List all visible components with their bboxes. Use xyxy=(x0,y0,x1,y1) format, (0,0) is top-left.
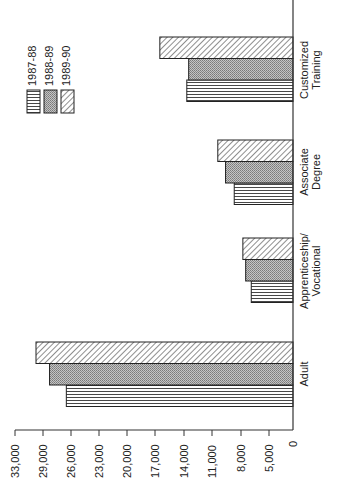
bar-1988-89 xyxy=(189,59,293,81)
category-label: Apprenticeship/Vocational xyxy=(298,226,322,316)
category-label-line: Degree xyxy=(310,127,322,217)
bars-group xyxy=(36,37,293,407)
category-label: AssociateDegree xyxy=(298,127,322,217)
value-axis-tick-label: 17,000 xyxy=(149,444,161,478)
bar-1988-89 xyxy=(246,260,293,282)
bar-1989-90 xyxy=(243,238,293,260)
value-axis-tick-label: 20,000 xyxy=(121,444,133,478)
bar-1989-90 xyxy=(218,140,293,162)
legend-swatch-1987-88 xyxy=(27,90,40,113)
value-axis-tick-label: 0 xyxy=(287,441,299,447)
bar-1987-88 xyxy=(251,281,293,303)
bar-1989-90 xyxy=(36,342,293,364)
bar-1987-88 xyxy=(187,80,293,102)
value-axis-tick-label: 23,000 xyxy=(93,444,105,478)
category-label-line: Apprenticeship/ xyxy=(298,226,310,316)
bar-1988-89 xyxy=(50,364,293,386)
bar-1988-89 xyxy=(226,162,293,184)
legend-swatch-1989-90 xyxy=(61,90,74,113)
category-label-line: Vocational xyxy=(310,226,322,316)
category-label-line: Training xyxy=(310,25,322,115)
value-axis-tick-label: 14,000 xyxy=(178,444,190,478)
legend-label-1988-89: 1988-89 xyxy=(43,46,55,86)
bar-1987-88 xyxy=(234,183,293,205)
bar-1989-90 xyxy=(160,37,293,59)
legend-swatches xyxy=(27,90,74,113)
legend-label-1989-90: 1989-90 xyxy=(60,46,72,86)
legend-swatch-1988-89 xyxy=(44,90,57,113)
value-axis-tick-label: 26,000 xyxy=(65,444,77,478)
category-label-line: Adult xyxy=(298,329,310,419)
legend-label-1987-88: 1987-88 xyxy=(26,46,38,86)
category-label: CustomizedTraining xyxy=(298,25,322,115)
value-axis-tick-label: 8,000 xyxy=(235,444,247,472)
bar-1987-88 xyxy=(66,385,293,407)
value-axis-tick-label: 11,000 xyxy=(206,445,218,478)
value-axis-tick-label: 29,000 xyxy=(37,444,49,478)
category-label-line: Associate xyxy=(298,127,310,217)
category-label-line: Customized xyxy=(298,25,310,115)
category-label: Adult xyxy=(298,329,310,419)
value-axis-tick-label: 33,000 xyxy=(9,444,21,478)
value-axis-tick-label: 5,000 xyxy=(263,444,275,472)
